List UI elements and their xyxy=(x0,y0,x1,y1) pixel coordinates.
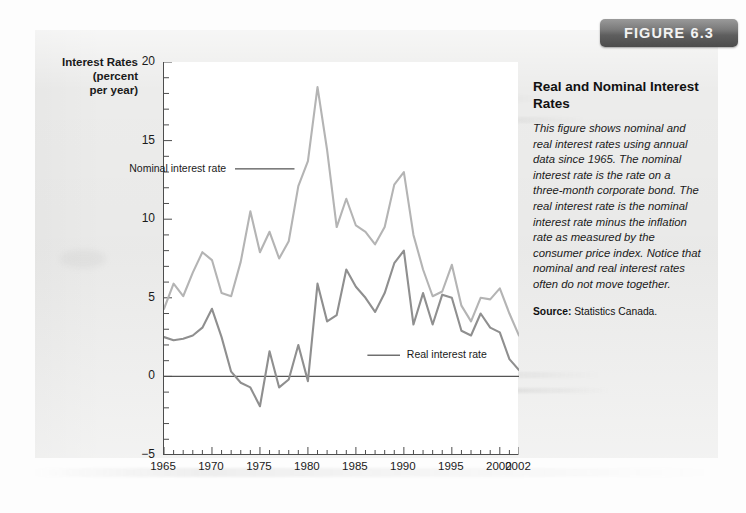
line-chart xyxy=(164,62,519,455)
caption-source-label: Source: xyxy=(533,306,571,317)
series-annotation-nominal: Nominal interest rate xyxy=(0,162,226,174)
caption-source-value: Statistics Canada. xyxy=(574,306,657,317)
caption-body: This figure shows nominal and real inter… xyxy=(533,121,701,293)
x-tick-label: 1970 xyxy=(198,460,224,472)
figure-number-label: FIGURE 6.3 xyxy=(624,25,714,41)
figure-page: FIGURE 6.3 Interest Rates (percent per y… xyxy=(0,0,746,513)
caption-title: Real and Nominal Interest Rates xyxy=(533,78,701,112)
y-axis-title-line-1: Interest Rates xyxy=(40,55,138,69)
y-axis-title-line-2: (percent xyxy=(40,69,138,83)
figure-number-badge: FIGURE 6.3 xyxy=(600,19,738,47)
y-axis-title-line-3: per year) xyxy=(40,83,138,97)
x-tick-label: 1975 xyxy=(246,460,272,472)
series-annotation-real: Real interest rate xyxy=(407,348,487,360)
x-tick-label: 2002 xyxy=(505,460,531,472)
x-tick-label: 1990 xyxy=(390,460,416,472)
caption-column: Real and Nominal Interest Rates This fig… xyxy=(533,78,701,317)
series-line-real xyxy=(164,251,519,407)
y-tick-label: 20 xyxy=(125,54,155,68)
y-tick-label: 15 xyxy=(125,133,155,147)
y-tick-label: 5 xyxy=(125,290,155,304)
caption-source: Source: Statistics Canada. xyxy=(533,306,701,317)
x-tick-label: 1980 xyxy=(294,460,320,472)
x-tick-label: 1985 xyxy=(342,460,368,472)
y-axis-title: Interest Rates (percent per year) xyxy=(40,55,138,97)
x-tick-label: 1965 xyxy=(150,460,176,472)
series-line-nominal xyxy=(164,87,519,335)
y-tick-label: 10 xyxy=(125,211,155,225)
x-tick-label: 1995 xyxy=(438,460,464,472)
chart-plot-area xyxy=(163,62,518,455)
y-tick-label: −5 xyxy=(125,447,155,461)
scan-artifact xyxy=(30,468,720,477)
y-tick-label: 0 xyxy=(125,368,155,382)
